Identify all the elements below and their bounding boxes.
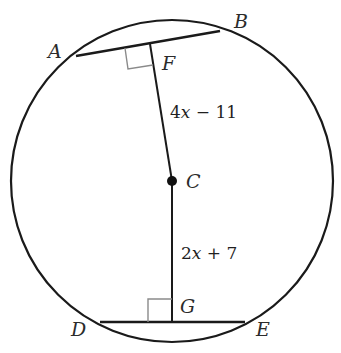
label-c: C: [186, 170, 201, 192]
chord-ab: [76, 31, 220, 56]
label-g: G: [180, 295, 195, 317]
label-a: A: [46, 40, 62, 62]
right-angle-mark-f: [125, 48, 153, 69]
length-cg: 2x + 7: [181, 243, 237, 263]
right-angle-mark-g: [148, 299, 172, 322]
label-b: B: [233, 10, 248, 32]
geometry-diagram: A B F C G D E 4x − 11 2x + 7: [0, 0, 341, 353]
length-cf: 4x − 11: [170, 102, 237, 122]
label-f: F: [161, 52, 176, 74]
label-d: D: [70, 318, 86, 340]
label-e: E: [255, 318, 270, 340]
center-point: [167, 176, 177, 186]
